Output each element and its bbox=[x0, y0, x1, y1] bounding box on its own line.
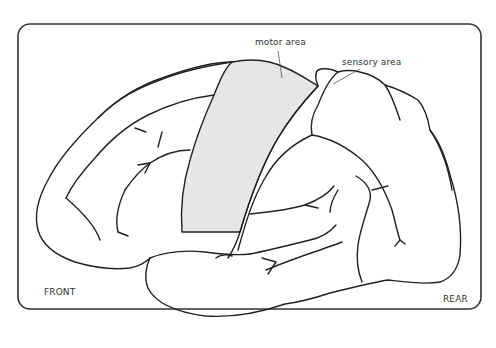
front-label: FRONT bbox=[44, 287, 75, 297]
sensory-area-label: sensory area bbox=[342, 57, 401, 67]
motor-area-region bbox=[181, 60, 318, 232]
rear-label: REAR bbox=[443, 294, 468, 304]
motor-area-label: motor area bbox=[255, 37, 306, 47]
